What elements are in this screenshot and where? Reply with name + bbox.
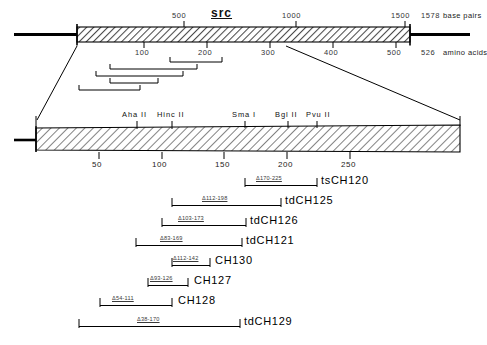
bracket-tdCH126 xyxy=(162,218,246,227)
deletion-label-tdCH121: Δ83-169 xyxy=(160,235,183,241)
construct-name-CH128: CH128 xyxy=(178,294,216,306)
aa-unit-label: amino acids xyxy=(443,48,487,57)
expanded-tick-150: 150 xyxy=(215,160,230,169)
construct-name-tdCH125: tdCH125 xyxy=(285,194,333,206)
construct-name-CH127: CH127 xyxy=(194,274,232,286)
restriction-site-aha-ii: Aha II xyxy=(122,110,147,119)
construct-name-tdCH121: tdCH121 xyxy=(246,234,294,246)
construct-name-tsCH120: tsCH120 xyxy=(321,174,369,186)
construct-name-tdCH129: tdCH129 xyxy=(244,315,292,327)
aa-end-number: 526 xyxy=(421,48,435,57)
bracket-tdCH121 xyxy=(136,238,242,247)
bp-tick-500: 500 xyxy=(172,11,186,20)
aa-tick-500: 500 xyxy=(387,48,401,57)
deletion-label-CH130: Δ112-142 xyxy=(173,255,198,261)
restriction-site-bgl-ii: Bgl II xyxy=(275,110,298,119)
deletion-label-tdCH125: Δ112-198 xyxy=(202,195,227,201)
aa-tick-400: 400 xyxy=(324,48,338,57)
aa-tick-300: 300 xyxy=(261,48,275,57)
deletion-label-CH128: Δ54-111 xyxy=(112,295,134,301)
top-gene-map xyxy=(14,21,470,48)
top-bracket-lines xyxy=(79,57,222,90)
bracket-CH128 xyxy=(100,298,172,307)
bp-tick-1500: 1500 xyxy=(391,11,410,20)
expanded-tick-200: 200 xyxy=(278,160,293,169)
gene-title: src xyxy=(211,6,232,20)
deletion-label-tsCH120: Δ170-225 xyxy=(256,175,282,181)
deletion-label-CH127: Δ93-126 xyxy=(150,275,173,281)
restriction-site-sma-i: Sma I xyxy=(232,110,256,119)
aa-tick-200: 200 xyxy=(198,48,212,57)
bp-end-number: 1578 xyxy=(421,11,440,20)
deletion-label-tdCH129: Δ38-170 xyxy=(137,316,160,322)
expanded-tick-100: 100 xyxy=(152,160,167,169)
restriction-site-pvu-ii: Pvu II xyxy=(306,110,331,119)
construct-name-tdCH126: tdCH126 xyxy=(250,214,298,226)
expanded-region-map xyxy=(14,121,460,159)
expanded-tick-50: 50 xyxy=(92,160,102,169)
aa-tick-100: 100 xyxy=(135,48,149,57)
bp-unit-label: base pairs xyxy=(443,11,482,20)
deletion-label-tdCH126: Δ103-173 xyxy=(178,215,204,221)
expanded-tick-250: 250 xyxy=(341,160,356,169)
restriction-site-hinc-ii: Hinc II xyxy=(157,110,185,119)
bp-tick-1000: 1000 xyxy=(282,11,301,20)
construct-name-CH130: CH130 xyxy=(215,254,253,266)
